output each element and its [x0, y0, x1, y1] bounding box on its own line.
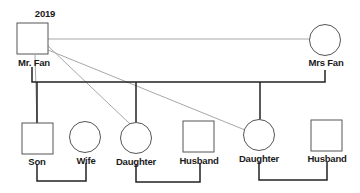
year-label: 2019 [35, 8, 55, 19]
family-bus-line [32, 67, 325, 82]
label-mr-fan: Mr. Fan [18, 57, 50, 68]
label-daughter2: Daughter [239, 153, 279, 164]
person-daughter2-circle[interactable] [244, 120, 275, 151]
person-mr-fan-square[interactable] [17, 23, 48, 54]
label-husband2: Husband [307, 153, 346, 164]
label-daughter1: Daughter [116, 156, 156, 167]
marriage-line-daughter2-husband2 [259, 162, 327, 180]
link-line-mr-fan-daughter1 [48, 46, 130, 124]
person-mrs-fan-circle[interactable] [310, 25, 341, 56]
label-son: Son [28, 156, 45, 167]
label-mrs-fan: Mrs Fan [308, 57, 343, 68]
family-tree-diagram: 2019 Mr. Fan Mrs Fan Son Wife Daughter H… [0, 0, 360, 193]
person-son-square[interactable] [22, 123, 53, 154]
person-husband2-square[interactable] [311, 120, 342, 151]
label-husband1: Husband [179, 155, 218, 166]
person-daughter1-circle[interactable] [121, 123, 152, 154]
person-husband1-square[interactable] [183, 121, 214, 152]
link-line-mr-fan-daughter2 [48, 50, 245, 130]
person-wife-circle[interactable] [70, 122, 101, 153]
label-wife: Wife [76, 155, 95, 166]
